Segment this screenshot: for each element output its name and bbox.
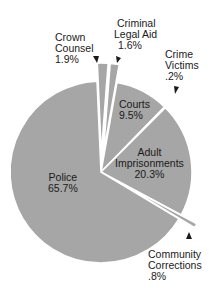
label-community-corrections: Community Corrections .8%: [148, 249, 202, 282]
arrow-community-corrections: [186, 232, 192, 239]
label-crime-victims: Crime Victims .2%: [165, 49, 199, 82]
arrow-crown-counsel: [93, 56, 99, 63]
label-courts: Courts 9.5%: [119, 99, 150, 121]
label-adult-imprisonments: Adult Imprisonments 20.3%: [115, 147, 184, 180]
arrow-legal-aid: [116, 56, 121, 63]
label-police: Police 65.7%: [48, 172, 78, 194]
label-crown-counsel: Crown Counsel 1.9%: [55, 32, 94, 65]
arrow-crime-victims: [174, 86, 179, 94]
label-criminal-legal-aid: Criminal Legal Aid 1.6%: [114, 18, 157, 51]
